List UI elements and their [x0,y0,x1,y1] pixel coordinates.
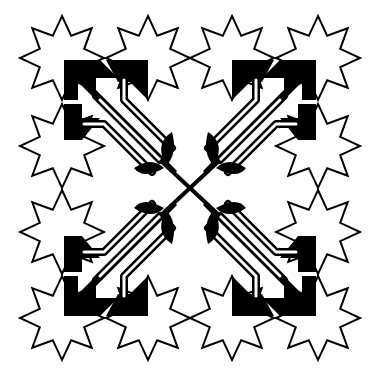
quilt-block-illustration [0,0,380,376]
star-icon [276,190,360,274]
arrow-quadrant [64,60,316,316]
star-icon [20,190,104,274]
center-stem [190,188,220,216]
center-stem [190,160,220,188]
star-icon [20,104,104,188]
star-icon [276,104,360,188]
center-stem [160,160,190,188]
center-stem [160,188,190,216]
